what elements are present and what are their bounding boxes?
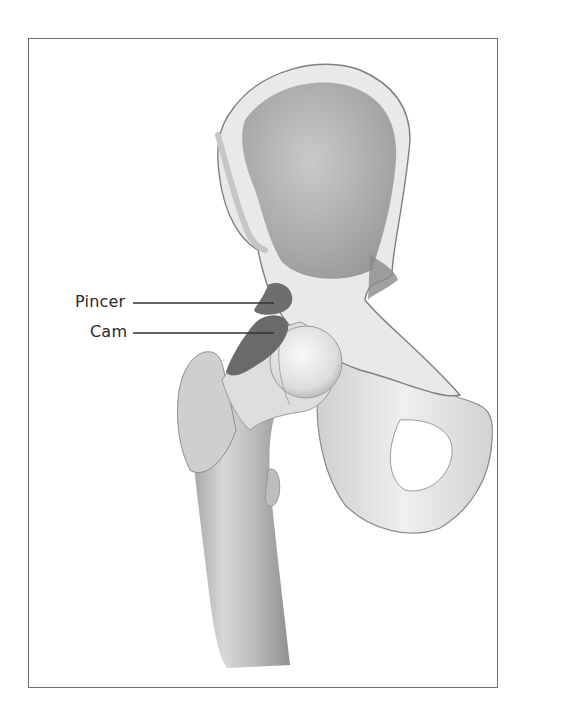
pincer-label: Pincer	[75, 292, 125, 311]
cam-label: Cam	[90, 322, 127, 341]
femur	[178, 322, 343, 668]
hip-anatomy-illustration	[0, 0, 570, 705]
